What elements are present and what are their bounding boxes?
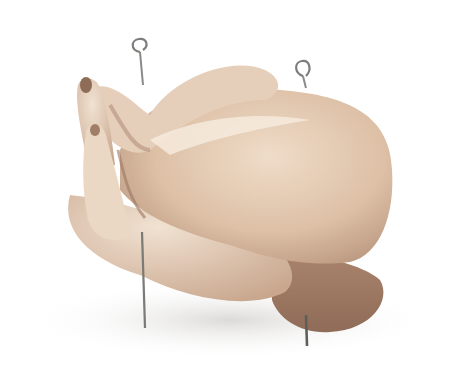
drumstick-lower-tip (90, 124, 100, 136)
chicken-illustration (0, 0, 449, 383)
drumstick-upper-tip (80, 77, 92, 93)
skewer-right-tip (306, 315, 307, 346)
chicken-photo: Raw trussed chicken with two looped meta… (0, 0, 449, 383)
skewer-left (133, 39, 147, 85)
skewer-right (296, 61, 309, 88)
